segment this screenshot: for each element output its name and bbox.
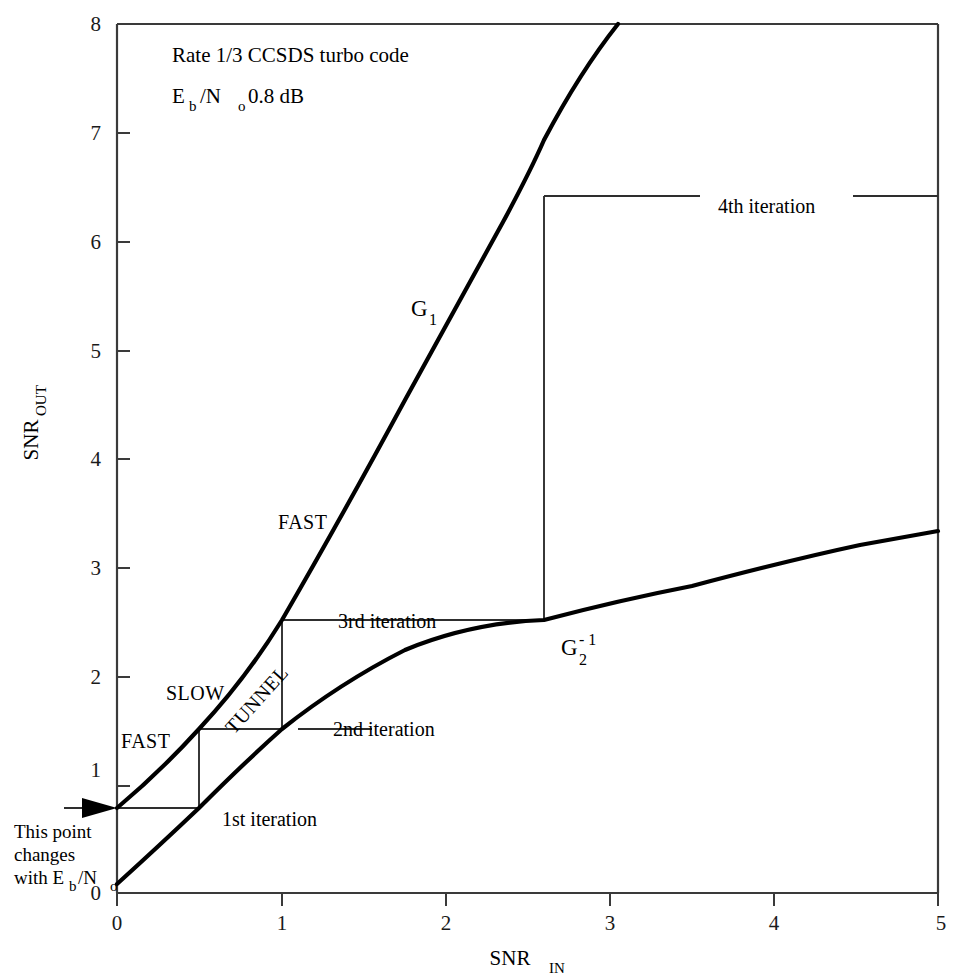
right-arrow-icon [82,798,117,818]
x-tick-label-2: 2 [441,911,452,935]
y-tick-label-3: 3 [91,556,102,580]
x-axis-title-main: SNR [490,946,531,970]
y-tick-label-2: 2 [91,665,102,689]
y-tick-label-7: 7 [91,121,102,145]
start-note-line-2: changes [14,844,75,865]
annotation-region-fast-lower: FAST [121,730,170,752]
chart-title-block: Rate 1/3 CCSDS turbo code E b /N o 0.8 d… [172,43,409,114]
x-tick-label-1: 1 [277,911,288,935]
g1-label-main: G [411,296,428,321]
x-tick-label-3: 3 [605,911,616,935]
g2-label-main: G [561,635,578,660]
chart-subtitle-value: 0.8 dB [248,84,304,108]
chart-canvas: 8 7 6 5 4 3 2 1 0 0 1 2 3 4 5 SNR [0,0,961,979]
annotation-4th-iteration: 4th iteration [718,195,815,217]
annotation-2nd-iteration: 2nd iteration [333,718,435,740]
region-label-fast-upper: FAST [278,511,327,533]
g2-inverse-curve-label: G 2 - 1 [561,631,596,668]
start-note-line-3b: b [69,878,77,894]
chart-subtitle-eb: E [172,84,185,108]
annotation-iteration-4: 4th iteration [718,195,815,217]
g1-curve-label: G 1 [411,296,437,328]
y-tick-label-4: 4 [91,447,102,471]
x-axis-ticks: 0 1 2 3 4 5 [112,893,947,935]
y-tick-label-1: 1 [91,758,102,782]
start-point-note: This point changes with E b /N o [14,821,118,894]
g2-label-subscript: 2 [579,651,587,668]
start-note-line-3d: o [110,878,118,894]
start-note-line-3c: /N [78,867,97,888]
annotation-iteration-1: 1st iteration [222,808,317,830]
y-axis-title: SNR OUT [19,385,49,460]
x-tick-label-4: 4 [769,911,780,935]
x-tick-label-5: 5 [936,911,947,935]
y-tick-label-5: 5 [91,339,102,363]
region-label-slow: SLOW [166,682,225,704]
chart-subtitle-b: b [189,98,197,114]
annotation-iteration-3: 3rd iteration [338,610,436,632]
y-tick-label-6: 6 [91,230,102,254]
g2-label-superscript: - 1 [579,631,596,648]
y-tick-label-8: 8 [91,12,102,36]
chart-title: Rate 1/3 CCSDS turbo code [172,43,409,67]
plot-frame [117,24,938,893]
x-tick-label-0: 0 [112,911,123,935]
g1-label-subscript: 1 [429,311,437,328]
exit-chart-figure: 8 7 6 5 4 3 2 1 0 0 1 2 3 4 5 SNR [0,0,961,979]
start-point-arrow [64,798,117,818]
x-axis-title: SNR IN [490,946,565,976]
x-axis-title-sub: IN [549,960,565,976]
chart-subtitle-n: /N [200,84,221,108]
decoding-trajectory [117,196,544,808]
annotation-iteration-2: 2nd iteration [333,718,435,740]
y-axis-ticks: 8 7 6 5 4 3 2 1 0 [91,12,131,905]
start-note-line-1: This point [14,821,92,842]
region-label-fast-lower: FAST [121,730,170,752]
annotation-region-slow: SLOW [166,682,225,704]
chart-subtitle-o: o [238,98,246,114]
start-note-line-3a: with E [14,867,64,888]
annotation-1st-iteration: 1st iteration [222,808,317,830]
trajectory-staircase [117,196,544,808]
annotation-region-fast-upper: FAST [278,511,327,533]
y-axis-title-main: SNR [19,420,43,461]
y-axis-title-sub: OUT [33,385,49,416]
annotation-3rd-iteration: 3rd iteration [338,610,436,632]
